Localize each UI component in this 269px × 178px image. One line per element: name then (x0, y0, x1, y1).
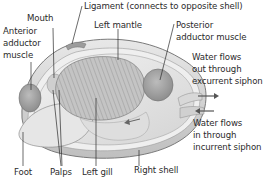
posterior-adductor-muscle-shape (143, 69, 173, 101)
label-incurrent-line3: incurrent siphon (193, 142, 261, 153)
label-right-shell: Right shell (134, 165, 178, 176)
label-anterior-adductor-line3: muscle (3, 50, 33, 61)
clam-anatomy-diagram: Ligament (connects to opposite shell) Mo… (0, 0, 269, 178)
label-posterior-adductor-line1: Posterior (176, 20, 213, 31)
label-anterior-adductor-line1: Anterior (3, 26, 37, 37)
label-excurrent-line3: excurrent siphon (192, 76, 263, 87)
label-posterior-adductor-line2: adductor muscle (176, 32, 246, 43)
label-excurrent-line2: out through (192, 64, 241, 75)
label-foot: Foot (14, 167, 32, 178)
label-anterior-adductor-line2: adductor (3, 38, 41, 49)
label-left-mantle: Left mantle (94, 20, 142, 31)
label-mouth: Mouth (27, 13, 53, 24)
label-palps: Palps (50, 167, 72, 178)
label-ligament: Ligament (connects to opposite shell) (84, 1, 243, 12)
anterior-adductor-muscle-shape (19, 84, 41, 112)
label-left-gill: Left gill (82, 167, 113, 178)
label-excurrent-line1: Water flows (192, 52, 241, 63)
label-incurrent-line2: in through (193, 130, 236, 141)
label-incurrent-line1: Water flows (193, 118, 242, 129)
left-gill-shape (56, 57, 145, 121)
